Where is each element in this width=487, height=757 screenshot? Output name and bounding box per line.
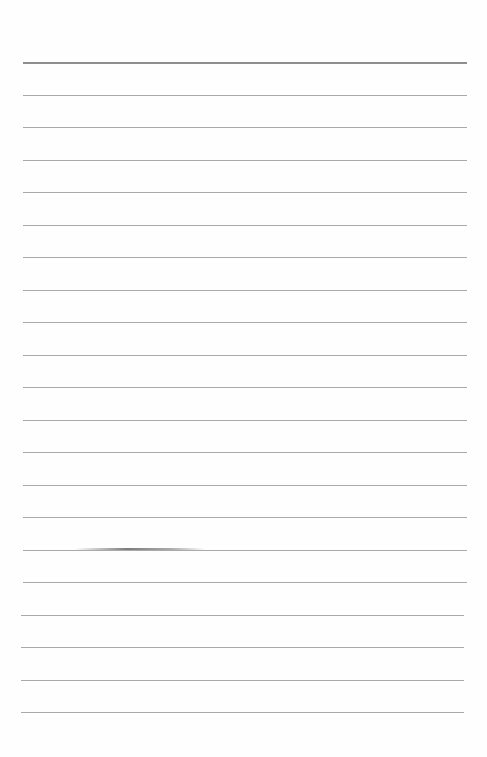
ink-smudge [75,548,205,550]
ruled-line [23,582,467,583]
ruled-line [23,420,467,421]
ruled-line [23,550,467,551]
ruled-line [21,680,464,681]
ruled-line [23,355,467,356]
ruled-line [23,95,467,96]
ruled-line [23,225,467,226]
ruled-line [23,257,467,258]
ruled-line [21,647,464,648]
header-rule [23,62,467,64]
ruled-line [23,290,467,291]
ruled-line [23,192,467,193]
lined-paper-page [0,0,487,757]
ruled-line [23,485,467,486]
ruled-line [23,127,467,128]
ruled-line [21,712,464,713]
ruled-line [23,387,467,388]
ruled-line [23,322,467,323]
ruled-line [23,517,467,518]
ruled-line [21,615,464,616]
ruled-line [23,160,467,161]
ruled-line [23,452,467,453]
